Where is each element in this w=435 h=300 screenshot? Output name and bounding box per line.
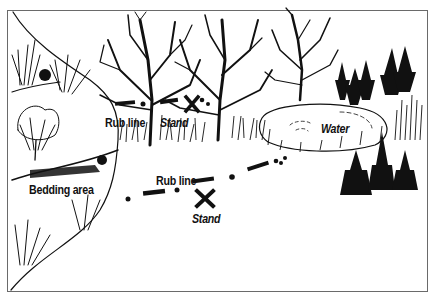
- landscape-drawing: [0, 0, 435, 300]
- stand-bottom-marker: [197, 191, 213, 206]
- bare-tree-3: [265, 8, 338, 100]
- label-rub-line-bottom: Rub line: [156, 173, 196, 188]
- shrubs-left: [12, 40, 100, 265]
- label-water: Water: [321, 121, 349, 136]
- label-rub-line-top: Rub line: [105, 115, 145, 130]
- stand-top-marker: [186, 97, 198, 111]
- small-tree: [18, 106, 59, 160]
- label-stand-bottom: Stand: [192, 211, 220, 226]
- label-bedding-area: Bedding area: [29, 182, 94, 197]
- label-stand-top: Stand: [160, 115, 188, 130]
